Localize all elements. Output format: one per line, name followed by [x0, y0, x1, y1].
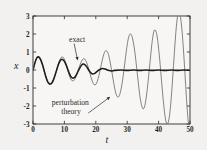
x-tick-label: 20 [92, 126, 100, 134]
y-tick-label: -2 [24, 103, 30, 111]
figure-container: -3-2-10123 01020304050 x t exact perturb… [0, 0, 207, 150]
annotation-perturbation-line1: perturbation [52, 98, 89, 107]
annotation-exact: exact [69, 35, 86, 44]
x-axis-label: t [106, 134, 109, 145]
x-tick-label: 0 [31, 126, 35, 134]
y-tick-label: 0 [26, 67, 30, 75]
y-axis-label: x [13, 60, 19, 71]
y-tick-label: 3 [26, 13, 30, 21]
x-tick-label: 10 [61, 126, 69, 134]
annotation-perturbation-line2: theory [61, 107, 81, 116]
x-axis-tick-labels: 01020304050 [31, 126, 194, 134]
y-axis-tick-labels: -3-2-10123 [24, 13, 30, 129]
x-tick-label: 40 [155, 126, 163, 134]
x-tick-label: 30 [124, 126, 132, 134]
x-tick-label: 50 [186, 126, 194, 134]
y-tick-label: 1 [26, 49, 30, 57]
y-tick-label: -1 [24, 85, 30, 93]
y-tick-label: -3 [24, 121, 30, 129]
chart-plot: -3-2-10123 01020304050 x t exact perturb… [0, 0, 207, 150]
y-tick-label: 2 [26, 31, 30, 39]
